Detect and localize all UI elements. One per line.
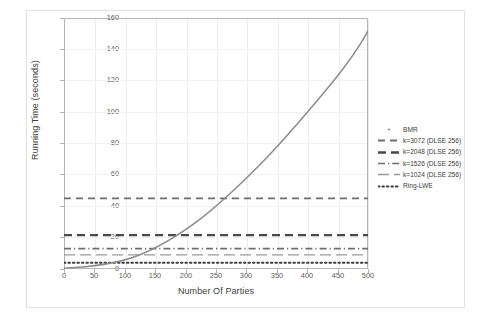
dashed-line-icon <box>378 135 400 146</box>
legend-item-k3072[interactable]: k=3072 (DLSE 256) <box>378 135 482 146</box>
legend-item-ring-lwe[interactable]: Ring-LWE <box>378 180 482 191</box>
series-curve-bmr <box>64 31 368 269</box>
dashed-bold-line-icon <box>378 147 400 158</box>
legend-item-k2048[interactable]: k=2048 (DLSE 256) <box>378 147 482 158</box>
x-gridline <box>368 18 369 268</box>
legend-label-k1024: k=1024 (DLSE 256) <box>403 171 461 179</box>
legend-item-k1024[interactable]: k=1024 (DLSE 256) <box>378 169 482 180</box>
legend-label-ring-lwe: Ring-LWE <box>403 182 433 190</box>
y-axis-title: Running Time (seconds) <box>30 35 40 185</box>
marker-dot-icon <box>378 124 400 135</box>
x-axis-title: Number Of Parties <box>64 286 368 296</box>
dash-dot-line-icon <box>378 158 400 169</box>
chart-legend: BMR k=3072 (DLSE 256) k=2048 (DLSE 256) … <box>378 124 482 192</box>
legend-label-k1526: k=1526 (DLSE 256) <box>403 160 461 168</box>
legend-item-bmr[interactable]: BMR <box>378 124 482 135</box>
legend-label-bmr: BMR <box>403 126 418 134</box>
series-layer <box>64 18 368 269</box>
x-tick-label-500: 500 <box>348 272 388 280</box>
chart-figure: Running Time (seconds) 160 140 120 100 8… <box>0 0 491 321</box>
legend-label-k3072: k=3072 (DLSE 256) <box>403 137 461 145</box>
legend-item-k1526[interactable]: k=1526 (DLSE 256) <box>378 158 482 169</box>
solid-thin-line-icon <box>378 169 400 180</box>
legend-label-k2048: k=2048 (DLSE 256) <box>403 148 461 156</box>
dotted-line-icon <box>378 181 400 192</box>
